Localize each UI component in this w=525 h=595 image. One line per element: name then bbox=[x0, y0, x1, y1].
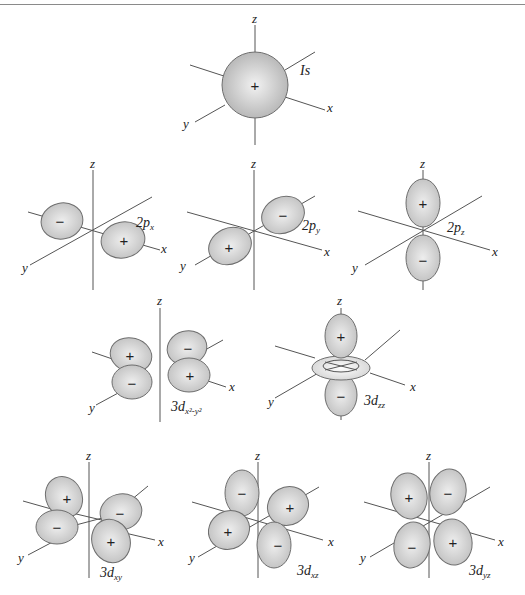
sign-minus: − bbox=[408, 539, 417, 556]
sign-plus: + bbox=[449, 534, 458, 551]
sign-minus: − bbox=[128, 375, 137, 392]
sign-plus: + bbox=[405, 489, 414, 506]
orbital-label: 2py bbox=[302, 218, 320, 235]
z-label: z bbox=[250, 156, 256, 171]
y-label: y bbox=[266, 394, 274, 409]
x-axis bbox=[370, 373, 405, 385]
y-label: y bbox=[187, 550, 195, 565]
x-label: x bbox=[160, 241, 167, 256]
sign-minus: − bbox=[56, 213, 65, 230]
sign-minus: − bbox=[238, 485, 247, 502]
y-axis bbox=[195, 105, 225, 122]
sign-plus: + bbox=[120, 232, 129, 249]
orbital-label: Is bbox=[299, 63, 311, 78]
y-axis bbox=[275, 372, 320, 398]
sign-minus: − bbox=[116, 505, 125, 522]
y-label: y bbox=[178, 258, 186, 273]
x-axis bbox=[285, 97, 325, 110]
z-label: z bbox=[85, 448, 91, 463]
orbital-2px: − + z y x 2px bbox=[20, 156, 167, 290]
x-label: x bbox=[326, 100, 333, 115]
y-label: y bbox=[181, 116, 189, 131]
sign-plus: + bbox=[225, 239, 234, 256]
orbital-label: 3dzz bbox=[363, 393, 386, 410]
sign-minus: − bbox=[337, 388, 346, 405]
z-label: z bbox=[425, 448, 431, 463]
x-axis bbox=[365, 330, 400, 360]
sign-plus: + bbox=[419, 195, 428, 212]
orbital-3dyz: + − − + z y x 3dyz bbox=[358, 448, 504, 580]
x-label: x bbox=[157, 534, 164, 549]
orbital-1s: + z y x Is bbox=[181, 11, 333, 145]
sign-minus: − bbox=[184, 340, 193, 357]
orbital-label: 3dxy bbox=[99, 565, 122, 582]
x-label: x bbox=[497, 534, 504, 549]
sign-plus: + bbox=[63, 490, 72, 507]
sign-plus: + bbox=[337, 328, 346, 345]
sign-plus: + bbox=[224, 523, 233, 540]
sign-plus: + bbox=[251, 77, 260, 94]
x-label: x bbox=[491, 244, 498, 259]
y-label: y bbox=[87, 400, 95, 415]
orbital-label: 2pz bbox=[447, 220, 465, 237]
sign-plus: + bbox=[107, 533, 116, 550]
z-label: z bbox=[254, 448, 260, 463]
y-axis bbox=[96, 392, 120, 405]
sign-minus: − bbox=[444, 485, 453, 502]
sign-plus: + bbox=[286, 499, 295, 516]
orbital-3dz2: + − z y x 3dzz bbox=[266, 293, 416, 420]
orbital-3dx2-y2: + − − + z y x 3dx²-y² bbox=[87, 293, 235, 422]
sign-minus: − bbox=[419, 252, 428, 269]
y-label: y bbox=[350, 260, 358, 275]
x-axis bbox=[205, 340, 223, 350]
x-label: x bbox=[228, 379, 235, 394]
z-label: z bbox=[336, 293, 342, 308]
sign-minus: − bbox=[279, 207, 288, 224]
x-label: x bbox=[409, 379, 416, 394]
z-label: z bbox=[419, 156, 425, 171]
z-label: z bbox=[156, 293, 162, 308]
orbital-label: 3dyz bbox=[468, 563, 491, 580]
orbital-label: 3dxz bbox=[296, 563, 319, 580]
z-label: z bbox=[251, 11, 257, 26]
orbital-2py: − + z y x 2py bbox=[178, 156, 330, 290]
sign-plus: + bbox=[186, 367, 195, 384]
sign-minus: − bbox=[274, 537, 283, 554]
x-axis bbox=[275, 346, 315, 358]
x-label: x bbox=[323, 244, 330, 259]
orbital-3dxz: − + + − z y x 3dxz bbox=[187, 448, 334, 580]
y-label: y bbox=[16, 550, 24, 565]
sign-plus: + bbox=[126, 347, 135, 364]
orbital-label: 3dx²-y² bbox=[170, 399, 202, 416]
y-label: y bbox=[358, 550, 366, 565]
orbital-label: 2px bbox=[136, 215, 154, 232]
orbital-2pz: + − z y x 2pz bbox=[350, 156, 498, 290]
sign-minus: − bbox=[53, 519, 62, 536]
orbital-3dxy: + − − + z y x 3dxy bbox=[16, 448, 164, 582]
z-label: z bbox=[89, 156, 95, 171]
orbital-diagram: + z y x Is − + z y x 2px − + z y x 2py bbox=[0, 0, 525, 595]
y-label: y bbox=[20, 260, 28, 275]
x-label: x bbox=[327, 534, 334, 549]
